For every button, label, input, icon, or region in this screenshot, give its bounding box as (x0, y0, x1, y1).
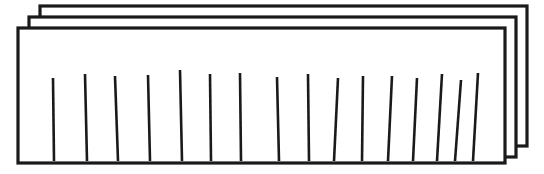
sheet-stack (18, 6, 527, 163)
tally-line-11 (362, 76, 363, 161)
tally-line-6 (210, 74, 211, 161)
stacked-sheets-diagram (0, 0, 544, 174)
front-sheet (18, 28, 505, 163)
tally-line-7 (240, 73, 241, 161)
tally-line-1 (53, 78, 54, 161)
tally-line-9 (308, 74, 309, 161)
figure-container (0, 0, 544, 174)
